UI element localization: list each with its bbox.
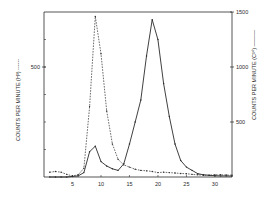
data-point (191, 174, 192, 175)
data-point (55, 171, 56, 172)
data-point (231, 175, 232, 176)
data-point (100, 53, 101, 54)
data-point (77, 175, 78, 176)
data-point (95, 16, 96, 17)
data-point (169, 116, 170, 117)
data-point (146, 170, 147, 171)
data-point (100, 161, 101, 162)
data-point (146, 55, 147, 56)
data-point (209, 175, 210, 176)
data-point (203, 174, 204, 175)
x-tick-label: 10 (98, 181, 104, 187)
right-tick-label: 1000 (236, 64, 248, 70)
data-point (186, 166, 187, 167)
data-point (140, 170, 141, 171)
left-axis-label: COUNTS PER MINUTE (H³) ------ (15, 59, 21, 141)
data-point (49, 176, 50, 177)
right-tick-label: 1500 (236, 9, 248, 15)
data-point (89, 106, 90, 107)
data-series (49, 16, 233, 178)
data-point (220, 175, 221, 176)
data-point (157, 39, 158, 40)
x-tick-label: 25 (183, 181, 189, 187)
data-point (180, 173, 181, 174)
x-tick-label: 20 (155, 181, 161, 187)
data-point (163, 171, 164, 172)
left-tick-label: 500 (31, 64, 40, 70)
data-point (112, 143, 113, 144)
right-axis-label: COUNTS PER MINUTE (C¹⁴) ——— (251, 29, 257, 120)
data-point (140, 99, 141, 100)
data-point (134, 121, 135, 122)
data-point (123, 163, 124, 164)
data-point (214, 175, 215, 176)
data-point (83, 172, 84, 173)
data-point (174, 143, 175, 144)
data-point (152, 171, 153, 172)
right-tick-label: 500 (236, 119, 245, 125)
c14-solid-curve (50, 20, 232, 177)
data-point (129, 166, 130, 167)
data-point (49, 171, 50, 172)
data-point (163, 83, 164, 84)
right-axis-ticks: 50010001500 (230, 9, 248, 125)
x-tick-label: 30 (212, 181, 218, 187)
data-point (106, 165, 107, 166)
data-point (169, 172, 170, 173)
data-point (117, 170, 118, 171)
chart-canvas: 51015202530 500 50010001500 COUNTS PER M… (0, 0, 272, 197)
x-tick-label: 5 (71, 181, 74, 187)
data-point (157, 172, 158, 173)
data-point (180, 160, 181, 161)
data-point (117, 159, 118, 160)
data-point (66, 176, 67, 177)
chromatography-chart: 51015202530 500 50010001500 COUNTS PER M… (0, 0, 272, 197)
data-point (129, 143, 130, 144)
data-point (226, 175, 227, 176)
data-point (95, 146, 96, 147)
data-point (106, 110, 107, 111)
data-point (89, 151, 90, 152)
x-tick-label: 15 (126, 181, 132, 187)
data-point (55, 176, 56, 177)
plot-frame (44, 12, 232, 177)
data-point (112, 168, 113, 169)
data-point (83, 168, 84, 169)
data-point (152, 19, 153, 20)
data-point (191, 170, 192, 171)
data-point (197, 173, 198, 174)
data-point (174, 172, 175, 173)
data-point (186, 173, 187, 174)
data-point (60, 176, 61, 177)
data-point (72, 176, 73, 177)
data-point (66, 174, 67, 175)
data-point (60, 171, 61, 172)
data-point (134, 169, 135, 170)
